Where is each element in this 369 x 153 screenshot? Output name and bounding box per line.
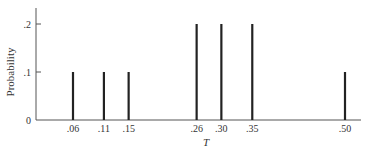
x-tick-label: .06: [67, 123, 80, 134]
x-tick-label: .15: [122, 123, 135, 134]
y-axis-title: Probability: [4, 47, 16, 96]
x-tick-label: .50: [339, 123, 352, 134]
x-axis-title: T: [203, 136, 210, 148]
y-tick-label: 0: [26, 115, 31, 126]
x-tick-label: .35: [246, 123, 259, 134]
x-tick-label: .30: [215, 123, 228, 134]
x-tick-labels: .06.11.15.26.30.35.50: [67, 123, 352, 134]
probability-stem-chart: 0.1.2 .06.11.15.26.30.35.50 Probability …: [0, 0, 369, 153]
x-tick-label: .26: [190, 123, 203, 134]
x-tick-label: .11: [98, 123, 110, 134]
y-tick-label: .1: [24, 67, 32, 78]
y-ticks: 0.1.2: [24, 19, 42, 126]
axes: [36, 8, 361, 120]
y-tick-label: .2: [24, 19, 32, 30]
bars: [73, 24, 345, 120]
